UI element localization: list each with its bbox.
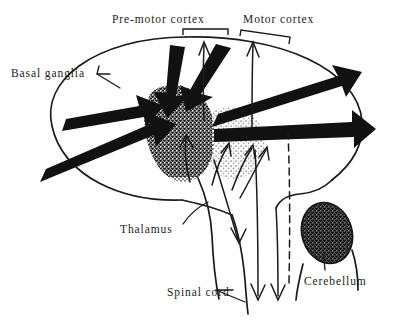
label-thalamus: Thalamus: [120, 224, 173, 236]
cerebellum-mass: [296, 196, 360, 272]
label-motor-cortex: Motor cortex: [243, 14, 314, 26]
label-spinal-cord: Spinal cord: [167, 287, 230, 299]
basal-ganglia-leader: [97, 74, 120, 88]
label-basal-ganglia: Basal ganglia: [11, 68, 85, 80]
label-cerebellum: Cerebellum: [304, 276, 367, 288]
brain-motor-pathway-figure: Pre-motor cortex Motor cortex Basal gang…: [0, 0, 407, 323]
premotor-cortex-bracket: [183, 29, 228, 35]
label-premotor-cortex: Pre-motor cortex: [112, 14, 205, 26]
rightward-thick-bar-upper: [212, 65, 362, 127]
